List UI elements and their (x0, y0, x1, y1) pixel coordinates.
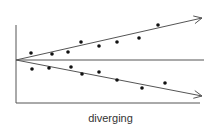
trend-lines (16, 16, 202, 98)
upper-data-point (66, 50, 70, 54)
lower-data-point (140, 86, 144, 90)
upper-data-point (50, 52, 54, 56)
data-points (29, 23, 167, 90)
lower-data-point (80, 72, 84, 76)
lower-data-point (163, 81, 167, 85)
upper-trend-arrow-arrowhead (193, 16, 202, 18)
upper-data-point (137, 36, 141, 40)
lower-data-point (47, 66, 51, 70)
diverging-diagram (0, 0, 221, 129)
upper-data-point (115, 40, 119, 44)
upper-trend-arrow (16, 18, 202, 60)
lower-trend-arrow-arrowhead (193, 96, 202, 98)
lower-data-point (97, 70, 101, 74)
lower-data-point (30, 67, 34, 71)
diagram-caption: diverging (0, 112, 221, 124)
lower-trend-arrow (16, 60, 202, 96)
lower-data-point (69, 65, 73, 69)
upper-data-point (79, 40, 83, 44)
upper-data-point (29, 51, 33, 55)
lower-data-point (115, 78, 119, 82)
upper-data-point (97, 44, 101, 48)
upper-data-point (156, 23, 160, 27)
